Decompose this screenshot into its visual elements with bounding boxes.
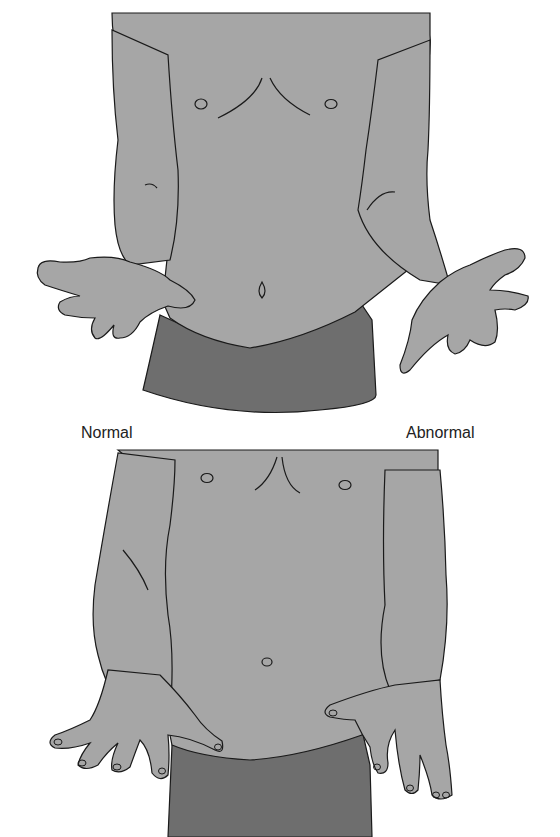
torso-hands-at-waist-drawing	[0, 445, 560, 837]
top-illustration	[0, 0, 560, 420]
abnormal-label: Abnormal	[406, 424, 474, 442]
torso-hands-outstretched-drawing	[0, 0, 560, 420]
normal-label: Normal	[81, 424, 133, 442]
bottom-illustration	[0, 445, 560, 837]
